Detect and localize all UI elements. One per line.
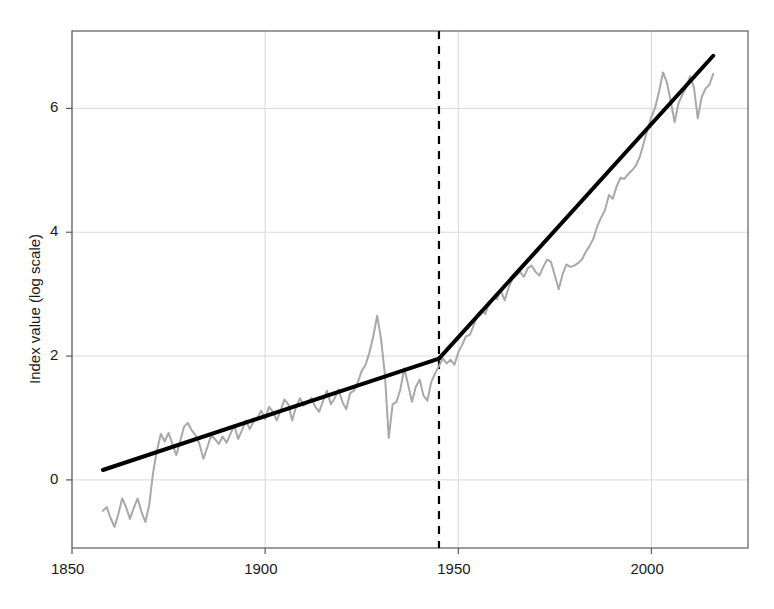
x-tick-label: 1950 [437, 560, 470, 577]
y-axis-title: Index value (log scale) [26, 234, 43, 384]
y-tick-label: 2 [50, 346, 58, 363]
y-tick-label: 0 [50, 470, 58, 487]
x-tick-label: 1900 [244, 560, 277, 577]
chart-container: Index value (log scale) 1850190019502000… [0, 0, 774, 609]
chart-canvas [0, 0, 774, 609]
grid-lines [72, 31, 748, 548]
trend-line [103, 56, 713, 470]
axis-ticks [66, 108, 651, 554]
x-tick-label: 2000 [630, 560, 663, 577]
index-series-line [103, 72, 713, 526]
x-tick-label: 1850 [51, 560, 84, 577]
y-tick-label: 4 [50, 222, 58, 239]
y-tick-label: 6 [50, 98, 58, 115]
